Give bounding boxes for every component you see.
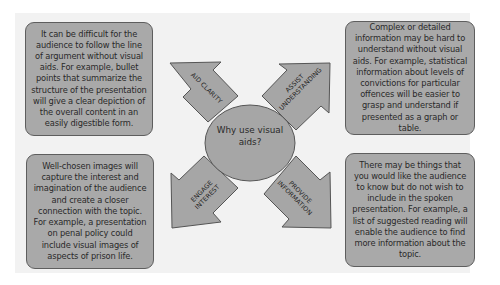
box-text: It can be difficult for the audience to … bbox=[31, 29, 147, 130]
box-text: Complex or detailed information may be h… bbox=[351, 22, 469, 134]
box-text: There may be things that you would like … bbox=[351, 160, 469, 261]
box-text: Well-chosen images will capture the inte… bbox=[32, 161, 148, 262]
box-assist-understanding: Complex or detailed information may be h… bbox=[345, 21, 475, 135]
box-provide-information: There may be things that you would like … bbox=[345, 153, 475, 267]
hub-label: Why use visual aids? bbox=[205, 124, 295, 148]
box-aid-clarity: It can be difficult for the audience to … bbox=[25, 22, 153, 136]
box-engage-interest: Well-chosen images will capture the inte… bbox=[26, 154, 154, 269]
